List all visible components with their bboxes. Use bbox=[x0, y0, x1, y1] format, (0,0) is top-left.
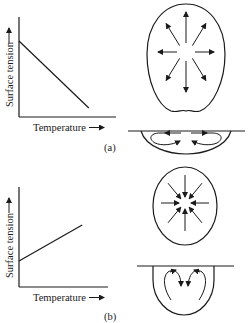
flow-a-left-icon bbox=[151, 133, 181, 145]
panel-b: Surface tension Temperature (b) bbox=[4, 167, 234, 323]
flow-b-right-icon bbox=[188, 271, 206, 300]
drop-a-outward-arrow-icon bbox=[192, 24, 205, 46]
graph-b-trend-line bbox=[19, 225, 82, 261]
drop-b-arrows bbox=[161, 175, 209, 231]
cross-section-a bbox=[128, 131, 245, 154]
cross-section-b bbox=[137, 266, 234, 315]
drop-b-inward-arrow-icon bbox=[189, 183, 202, 199]
figure-canvas: Surface tension Temperature (a) bbox=[0, 0, 248, 323]
caption-b: (b) bbox=[104, 311, 117, 323]
graph-b-y-label: Surface tension bbox=[4, 212, 15, 278]
graph-b-x-label: Temperature bbox=[33, 292, 86, 303]
panel-a: Surface tension Temperature (a) bbox=[4, 4, 245, 154]
flow-b-left-icon bbox=[164, 271, 181, 300]
drop-a-outward-arrow-icon bbox=[192, 58, 205, 80]
graph-a-x-label: Temperature bbox=[33, 122, 86, 133]
drop-b-inward-arrow-icon bbox=[189, 207, 202, 223]
drop-a-outward-arrow-icon bbox=[166, 24, 179, 46]
drop-a-outward-arrow-icon bbox=[166, 58, 179, 80]
caption-a: (a) bbox=[104, 142, 116, 154]
cross-section-b-outline bbox=[153, 266, 214, 315]
drop-b-inward-arrow-icon bbox=[168, 183, 181, 199]
graph-a-y-label: Surface tension bbox=[4, 41, 15, 107]
graph-a-trend-line bbox=[19, 41, 89, 108]
flow-a-right-icon bbox=[191, 133, 221, 145]
drop-b-inward-arrow-icon bbox=[168, 207, 181, 223]
drop-a-arrows bbox=[158, 12, 214, 92]
graph-b: Surface tension Temperature (b) bbox=[4, 187, 117, 323]
drop-a bbox=[147, 4, 225, 112]
graph-a: Surface tension Temperature (a) bbox=[4, 17, 116, 154]
drop-b bbox=[153, 167, 217, 245]
